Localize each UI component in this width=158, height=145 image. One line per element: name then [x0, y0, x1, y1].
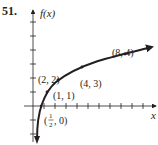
- log-function-chart: f(x) x: [0, 0, 158, 145]
- label-point-4-3: (4, 3): [80, 78, 102, 90]
- graph-figure: 51. f(x): [0, 0, 158, 145]
- label-point-half-0: ( 1 2 , 0): [44, 112, 67, 129]
- svg-text:(: (: [44, 115, 48, 127]
- label-point-1-1: (1, 1): [53, 90, 75, 102]
- label-point-2-2: (2, 2): [38, 74, 60, 86]
- svg-text:1: 1: [49, 112, 53, 120]
- x-axis-label: x: [150, 109, 156, 121]
- problem-number: 51.: [2, 4, 17, 19]
- curve-arrow-down-icon: [34, 136, 40, 144]
- svg-text:, 0): , 0): [54, 115, 67, 127]
- y-axis-label: f(x): [40, 7, 56, 20]
- label-point-8-4: (8, 4): [112, 47, 134, 59]
- svg-text:2: 2: [49, 121, 53, 129]
